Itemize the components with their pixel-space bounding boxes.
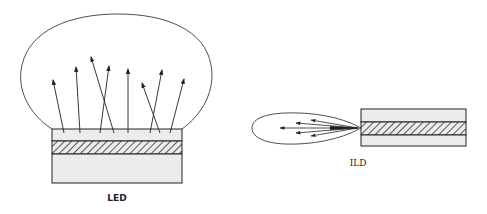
led-substrate-layer (52, 154, 182, 183)
led-arrow (76, 67, 80, 133)
diagram-canvas: LED ILD (0, 0, 487, 214)
ild-panel: ILD (252, 109, 466, 168)
led-label: LED (107, 193, 126, 203)
led-active-layer (52, 141, 182, 154)
led-emission-lobe (21, 14, 212, 129)
led-panel: LED (21, 14, 212, 203)
ild-top-layer (361, 109, 466, 122)
led-top-layer (52, 129, 182, 141)
led-arrow (170, 79, 184, 133)
ild-active-layer (361, 122, 466, 135)
led-arrow (150, 70, 162, 133)
ild-label: ILD (350, 158, 367, 168)
led-arrow (53, 80, 64, 133)
led-arrow (100, 66, 109, 133)
led-emission-arrows (53, 57, 184, 133)
ild-bottom-layer (361, 135, 466, 146)
led-arrow (91, 57, 114, 133)
